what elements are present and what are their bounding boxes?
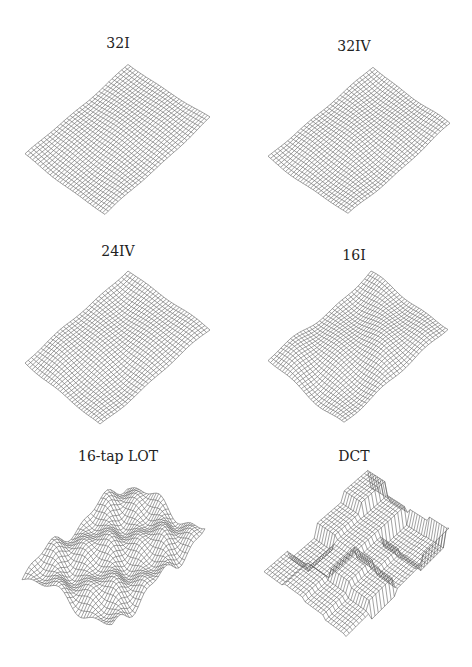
wireframe-mesh xyxy=(268,271,448,422)
wireframe-mesh xyxy=(268,67,450,213)
mesh-plot xyxy=(0,0,236,220)
wireframe-mesh xyxy=(25,65,210,215)
panel-16I: 16I xyxy=(236,225,472,435)
panel-32I: 32I xyxy=(0,0,236,220)
wireframe-mesh xyxy=(25,271,210,424)
mesh-plot xyxy=(236,0,472,220)
panel-24IV: 24IV xyxy=(0,225,236,435)
panel-16-tap-LOT: 16-tap LOT xyxy=(0,440,236,667)
mesh-plot xyxy=(0,225,236,435)
wireframe-mesh xyxy=(22,488,205,625)
wireframe-mesh xyxy=(264,471,449,637)
panel-DCT: DCT xyxy=(236,440,472,667)
mesh-plot xyxy=(236,440,472,667)
mesh-plot xyxy=(236,225,472,435)
mesh-plot xyxy=(0,440,236,667)
panel-32IV: 32IV xyxy=(236,0,472,220)
